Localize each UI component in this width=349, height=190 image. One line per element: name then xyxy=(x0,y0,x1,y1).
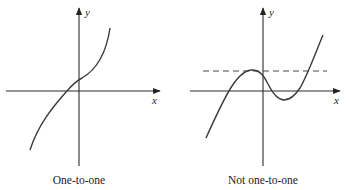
caption-not-one-to-one: Not one-to-one xyxy=(228,174,298,186)
not-one-to-one-curve xyxy=(206,35,323,138)
x-axis-label: x xyxy=(151,94,157,106)
figure-canvas: y x One-to-one y x Not one-to-one xyxy=(0,0,349,190)
x-axis-label: x xyxy=(333,94,339,106)
panel-one-to-one: y x One-to-one xyxy=(6,6,160,186)
y-axis-label: y xyxy=(268,6,274,18)
one-to-one-curve xyxy=(30,28,110,150)
panel-not-one-to-one: y x Not one-to-one xyxy=(190,6,340,186)
y-axis-label: y xyxy=(84,6,90,18)
caption-one-to-one: One-to-one xyxy=(53,174,105,186)
